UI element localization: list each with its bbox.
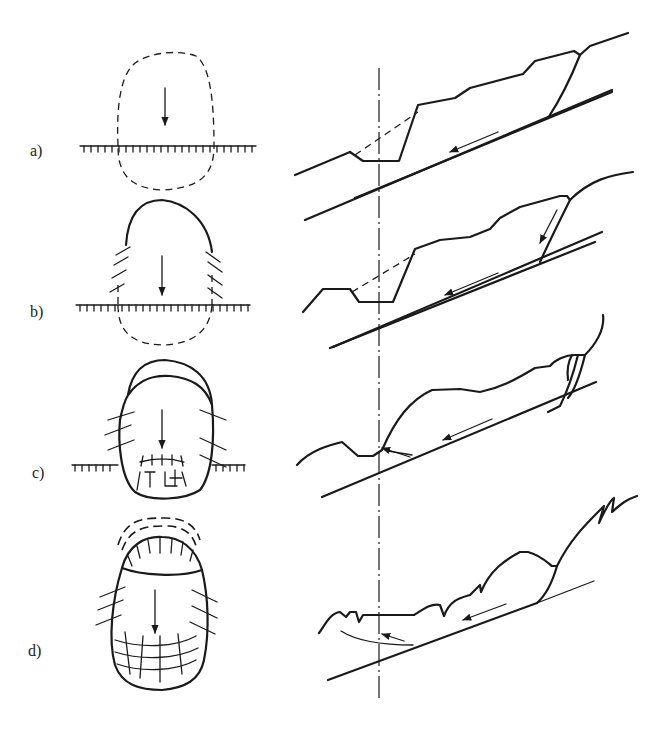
slide-arrow-icon xyxy=(382,448,410,457)
panel-label-a: a) xyxy=(30,142,42,160)
slide-arrow-icon xyxy=(382,634,404,641)
plan-view-d xyxy=(96,518,217,690)
cross-section-d xyxy=(319,496,637,680)
panel-label-b: b) xyxy=(30,303,43,321)
panel-label-c: c) xyxy=(32,464,44,482)
cross-section-a xyxy=(295,33,628,198)
plan-view-a xyxy=(80,53,256,190)
landslide-diagram: a) b) c) d) xyxy=(0,0,667,730)
panel-label-d: d) xyxy=(28,642,41,660)
plan-view-c xyxy=(72,360,245,499)
plan-view-b xyxy=(76,200,250,345)
cross-section-c xyxy=(297,232,603,497)
cross-section-b xyxy=(303,90,633,348)
ground-line-ticks xyxy=(80,146,256,152)
slide-arrow-icon xyxy=(540,210,557,243)
